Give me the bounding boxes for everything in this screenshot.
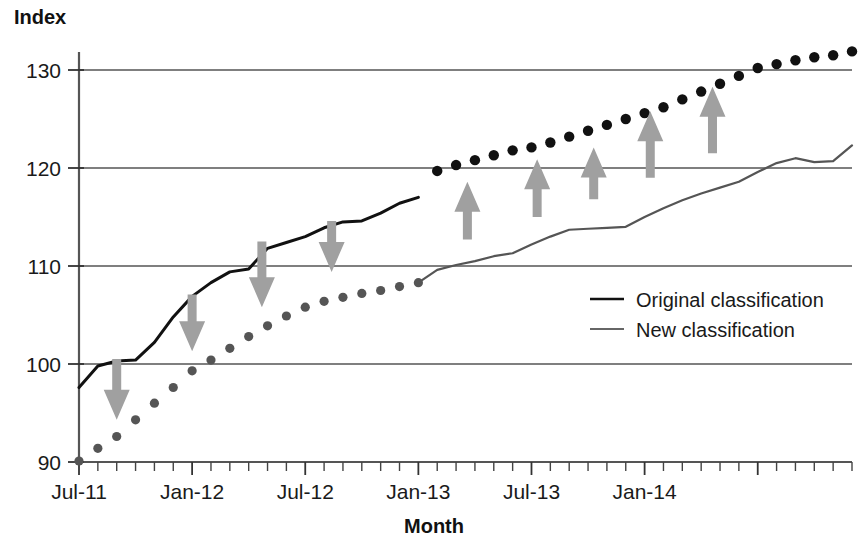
x-tick-label: Jan-14 bbox=[613, 480, 678, 503]
y-tick-label: 130 bbox=[26, 59, 61, 82]
series-data-point bbox=[395, 282, 404, 291]
series-data-point bbox=[771, 59, 781, 69]
series-data-point bbox=[188, 366, 197, 375]
series-data-point bbox=[602, 120, 612, 130]
series-data-point bbox=[621, 114, 631, 124]
x-tick-label: Jan-12 bbox=[160, 480, 224, 503]
series-data-point bbox=[169, 383, 178, 392]
series-data-point bbox=[282, 311, 291, 320]
series-data-point bbox=[376, 286, 385, 295]
series-data-point bbox=[357, 289, 366, 298]
series-data-point bbox=[206, 355, 215, 364]
series-data-point bbox=[734, 71, 744, 81]
x-tick-label: Jul-12 bbox=[277, 480, 334, 503]
series-data-point bbox=[150, 399, 159, 408]
series-data-point bbox=[451, 160, 461, 170]
x-axis-title: Month bbox=[404, 515, 464, 537]
series-data-point bbox=[470, 155, 480, 165]
series-data-point bbox=[225, 344, 234, 353]
series-data-point bbox=[301, 303, 310, 312]
series-data-point bbox=[677, 94, 687, 104]
series-data-point bbox=[809, 52, 819, 62]
series-data-point bbox=[507, 145, 517, 155]
x-tick-label: Jan-13 bbox=[386, 480, 450, 503]
series-data-point bbox=[545, 137, 555, 147]
series-data-point bbox=[432, 166, 442, 176]
series-data-point bbox=[715, 79, 725, 89]
series-data-point bbox=[338, 293, 347, 302]
series-data-point bbox=[696, 86, 706, 96]
series-data-point bbox=[320, 297, 329, 306]
index-line-chart: 90100110120130 Jul-11Jan-12Jul-12Jan-13J… bbox=[0, 0, 868, 541]
series-data-point bbox=[828, 50, 838, 60]
series-data-point bbox=[489, 150, 499, 160]
legend-label: Original classification bbox=[636, 289, 824, 311]
chart-container: 90100110120130 Jul-11Jan-12Jul-12Jan-13J… bbox=[0, 0, 868, 541]
series-data-point bbox=[658, 102, 668, 112]
series-data-point bbox=[526, 142, 536, 152]
y-tick-label: 100 bbox=[26, 353, 61, 376]
series-data-point bbox=[583, 126, 593, 136]
y-tick-label: 120 bbox=[26, 157, 61, 180]
series-data-point bbox=[93, 444, 102, 453]
x-tick-label: Jul-11 bbox=[51, 480, 107, 503]
y-axis-title: Index bbox=[14, 6, 66, 28]
series-data-point bbox=[74, 456, 83, 465]
y-tick-label: 110 bbox=[28, 255, 61, 278]
series-data-point bbox=[847, 46, 857, 56]
legend-label: New classification bbox=[636, 319, 795, 341]
chart-background bbox=[0, 0, 868, 541]
series-data-point bbox=[564, 131, 574, 141]
series-data-point bbox=[131, 415, 140, 424]
series-data-point bbox=[753, 63, 763, 73]
series-data-point bbox=[790, 55, 800, 65]
series-data-point bbox=[112, 432, 121, 441]
series-data-point bbox=[263, 321, 272, 330]
series-data-point bbox=[244, 332, 253, 341]
x-tick-label: Jul-13 bbox=[503, 480, 560, 503]
y-tick-label: 90 bbox=[38, 451, 61, 474]
